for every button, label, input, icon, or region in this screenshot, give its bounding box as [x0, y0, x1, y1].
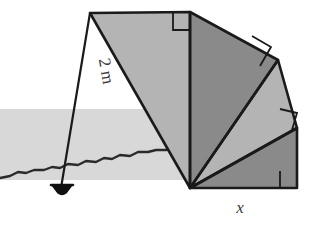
figure-canvas: 2 m x — [0, 0, 314, 229]
geometry-figure: 2 m x — [0, 0, 314, 229]
base-label: x — [235, 198, 244, 217]
